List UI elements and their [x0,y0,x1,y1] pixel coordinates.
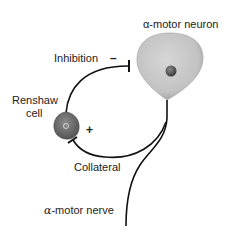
excitation-sign: + [86,123,93,137]
motor-nerve-text: -motor nerve [51,204,113,216]
renshaw-label-line1: Renshaw [12,94,58,106]
renshaw-circuit-diagram: α-motor neuron Inhibition – Renshaw cell… [0,0,233,234]
motor-axon [126,100,167,226]
renshaw-cell-soma [54,112,79,139]
collateral-label: Collateral [74,161,120,173]
inhibition-axon [66,66,128,113]
motor-neuron-label: α-motor neuron [143,18,218,30]
motor-nerve-label: α-motor nerve [44,204,114,217]
motor-neuron-nucleus [166,66,177,77]
inhibition-sign: – [110,51,117,65]
renshaw-label-line2: cell [26,107,43,119]
inhibition-label: Inhibition [54,52,98,64]
